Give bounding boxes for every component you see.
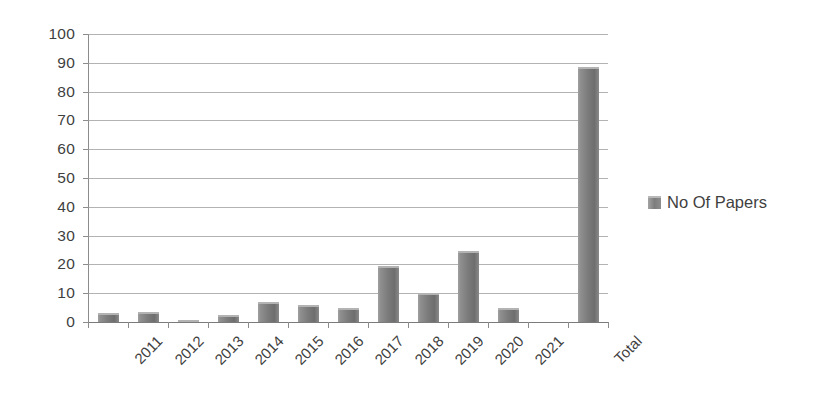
bar[interactable] <box>138 312 159 322</box>
y-axis-tick-label: 80 <box>19 84 75 100</box>
x-axis-tick-label: 2015 <box>292 333 326 367</box>
bar[interactable] <box>458 251 479 322</box>
y-axis-tick-label: 20 <box>19 256 75 272</box>
x-axis-tick-label: 2012 <box>172 333 206 367</box>
bar-chart: 0102030405060708090100 20112012201320142… <box>0 0 816 407</box>
bar-slot <box>408 34 448 322</box>
x-axis-tick-label: 2018 <box>412 333 446 367</box>
x-axis-tick-label: 2013 <box>212 333 246 367</box>
x-axis-tick <box>128 322 129 328</box>
bar-slot <box>568 34 608 322</box>
bar-slot <box>328 34 368 322</box>
bar-slot <box>448 34 488 322</box>
x-axis-tick-label: 2020 <box>492 333 526 367</box>
x-axis-tick <box>408 322 409 328</box>
x-axis-tick <box>288 322 289 328</box>
x-axis-tick-label: 2011 <box>131 333 164 366</box>
y-axis-tick-label: 60 <box>19 141 75 157</box>
x-axis-tick <box>88 322 89 328</box>
y-axis-tick-label: 100 <box>19 26 75 42</box>
x-axis-tick <box>208 322 209 328</box>
x-axis-tick-label: 2021 <box>532 333 566 367</box>
bar-slot <box>288 34 328 322</box>
y-axis-tick-label: 30 <box>19 228 75 244</box>
y-axis-tick-label: 90 <box>19 55 75 71</box>
bar-slot <box>248 34 288 322</box>
x-axis-tick-label: 2019 <box>452 333 486 367</box>
bar-slot <box>168 34 208 322</box>
bar[interactable] <box>498 308 519 322</box>
bar-slot <box>488 34 528 322</box>
x-axis-tick <box>608 322 609 328</box>
x-axis-tick-label: 2017 <box>372 333 406 367</box>
y-axis-tick-label: 70 <box>19 112 75 128</box>
bar[interactable] <box>578 67 599 322</box>
x-axis-tick-label: 2016 <box>332 333 366 367</box>
legend-color-swatch <box>648 196 661 209</box>
y-axis-tick-label: 0 <box>19 314 75 330</box>
bar[interactable] <box>258 302 279 322</box>
x-axis-tick <box>168 322 169 328</box>
bar[interactable] <box>298 305 319 322</box>
y-axis-tick-label: 50 <box>19 170 75 186</box>
bar[interactable] <box>418 293 439 322</box>
bar-slot <box>208 34 248 322</box>
category-axis-line <box>88 322 608 323</box>
x-axis-tick <box>368 322 369 328</box>
chart-legend: No Of Papers <box>648 194 767 211</box>
bar[interactable] <box>378 266 399 322</box>
x-axis-tick <box>448 322 449 328</box>
y-axis-tick-label: 40 <box>19 199 75 215</box>
x-axis-tick <box>528 322 529 328</box>
bar[interactable] <box>178 320 199 322</box>
bar-slot <box>88 34 128 322</box>
bar[interactable] <box>338 308 359 322</box>
x-axis-tick-label: 2014 <box>252 333 286 367</box>
y-axis-tick-label: 10 <box>19 285 75 301</box>
legend-item-label: No Of Papers <box>667 194 767 211</box>
x-axis-tick <box>488 322 489 328</box>
bar[interactable] <box>218 315 239 322</box>
bar-slot <box>368 34 408 322</box>
plot-area <box>88 34 608 322</box>
x-axis-tick <box>568 322 569 328</box>
x-axis-tick-label: Total <box>611 333 644 366</box>
bar-slot <box>128 34 168 322</box>
x-axis-tick <box>248 322 249 328</box>
bar[interactable] <box>98 313 119 322</box>
x-axis-tick <box>328 322 329 328</box>
